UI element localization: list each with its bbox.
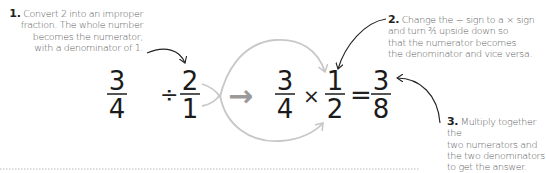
multiply-sign: × [303, 84, 320, 108]
fraction-three-eighths: 3 8 [366, 68, 396, 122]
fraction-three-quarters: 3 4 [270, 68, 300, 122]
step-2-arrow [338, 19, 386, 69]
step-3-arrow [397, 78, 440, 123]
fraction-two-over-one: 2 1 [175, 68, 205, 122]
arrow-right-icon: → [228, 78, 253, 113]
fraction-one-half: 1 2 [320, 68, 350, 122]
fraction-three-quarters: 3 4 [102, 68, 132, 122]
step-1-arrow [147, 49, 185, 63]
